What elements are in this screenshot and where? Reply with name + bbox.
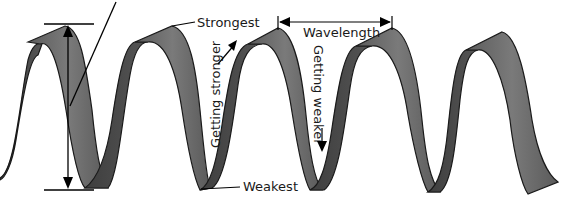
getting-stronger-arrow-icon bbox=[228, 40, 237, 51]
ribbon-front-segment bbox=[135, 26, 210, 190]
wavelength-label: Wavelength bbox=[303, 25, 380, 40]
wavelength-arrow-left-icon bbox=[279, 17, 290, 27]
ribbon-front-segment bbox=[356, 28, 440, 192]
ribbon-front-segment bbox=[466, 32, 558, 194]
getting-stronger-label: Getting stronger bbox=[208, 40, 223, 148]
ribbon-front-segment bbox=[248, 28, 322, 190]
wavelength-arrow-right-icon bbox=[380, 17, 391, 27]
weakest-label: Weakest bbox=[243, 179, 298, 194]
wave-diagram: Strongest Weakest Wavelength Getting str… bbox=[0, 0, 569, 206]
getting-weaker-label: Getting weaker bbox=[311, 45, 326, 145]
wave-ribbon bbox=[0, 26, 558, 194]
getting-weaker-arrow-icon bbox=[317, 141, 327, 152]
strongest-leader-line bbox=[172, 22, 195, 26]
amplitude-arrow-down-icon bbox=[63, 177, 73, 189]
ribbon-back-segment bbox=[0, 43, 42, 180]
strongest-label: Strongest bbox=[197, 15, 260, 30]
ribbon-back-segment bbox=[428, 50, 478, 192]
